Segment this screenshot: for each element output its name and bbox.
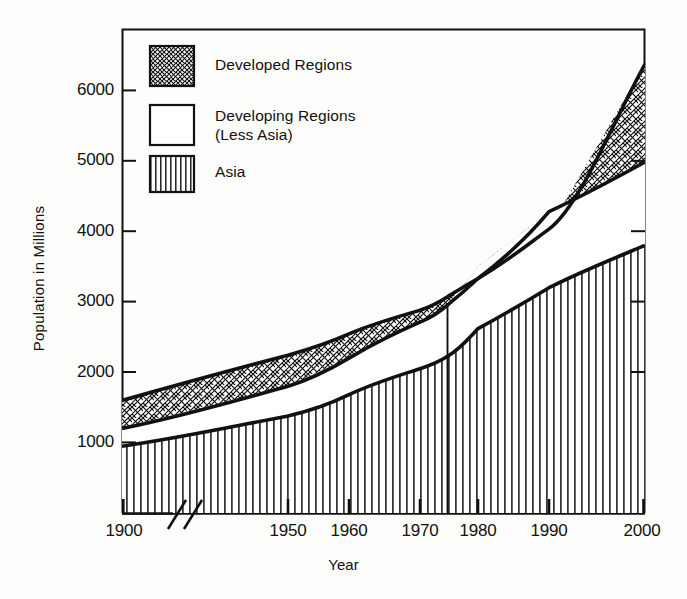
y-tick-label-5000: 5000 bbox=[36, 150, 114, 170]
legend-swatches bbox=[150, 46, 194, 192]
x-tick-label-2000: 2000 bbox=[602, 521, 682, 541]
stacked-areas bbox=[122, 64, 645, 513]
legend-label-developing-regions-sub: (Less Asia) bbox=[215, 126, 293, 144]
y-axis-ticks bbox=[122, 90, 136, 442]
x-tick-label-1960: 1960 bbox=[309, 521, 389, 541]
y-tick-label-4000: 4000 bbox=[36, 221, 114, 241]
x-axis-title: Year bbox=[0, 556, 687, 573]
y-axis-title: Population in Millions bbox=[30, 149, 47, 409]
y-tick-label-6000: 6000 bbox=[36, 80, 114, 100]
y-tick-label-1000: 1000 bbox=[36, 432, 114, 452]
cross-hatch-swatch bbox=[150, 46, 194, 86]
vertical-hatch-swatch bbox=[150, 156, 194, 192]
x-tick-label-1900: 1900 bbox=[84, 521, 164, 541]
legend-label-developed-regions: Developed Regions bbox=[215, 56, 352, 74]
y-tick-label-2000: 2000 bbox=[36, 362, 114, 382]
legend-label-developing-regions: Developing Regions bbox=[215, 107, 356, 125]
x-tick-label-1990: 1990 bbox=[509, 521, 589, 541]
legend-label-asia: Asia bbox=[215, 163, 246, 181]
x-tick-label-1980: 1980 bbox=[438, 521, 518, 541]
chart-figure: 6000 5000 4000 3000 2000 1000 1900 1950 … bbox=[0, 0, 687, 599]
y-tick-label-3000: 3000 bbox=[36, 291, 114, 311]
blank-swatch bbox=[150, 105, 194, 145]
